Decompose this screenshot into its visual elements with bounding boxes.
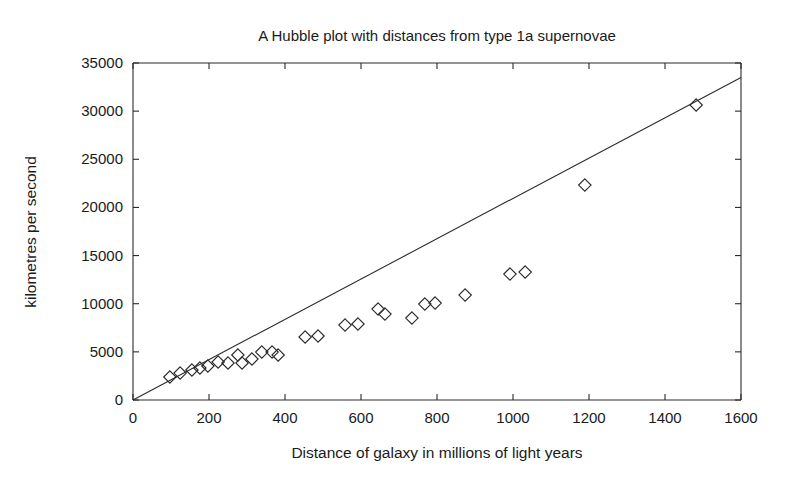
y-tick-label: 15000 [81,247,123,264]
data-point-marker [352,318,364,330]
y-tick-label: 0 [115,391,123,408]
y-tick-label: 10000 [81,295,123,312]
x-tick-label: 400 [272,409,297,426]
data-point-marker [372,303,384,315]
y-tick-label: 30000 [81,102,123,119]
data-point-marker [406,312,418,324]
y-tick-label: 35000 [81,54,123,71]
chart-title: A Hubble plot with distances from type 1… [258,27,616,44]
x-tick-label: 1000 [496,409,529,426]
x-tick-label: 800 [424,409,449,426]
x-tick-label: 600 [348,409,373,426]
data-point-marker [504,268,516,280]
data-point-marker [519,266,531,278]
x-tick-label: 0 [129,409,137,426]
data-point-marker [459,289,471,301]
y-axis-label: kilometres per second [22,156,39,308]
regression-line [133,77,741,400]
x-tick-label: 200 [196,409,221,426]
data-point-marker [339,319,351,331]
y-tick-label: 20000 [81,198,123,215]
x-axis-label: Distance of galaxy in millions of light … [291,444,582,461]
chart-canvas: A Hubble plot with distances from type 1… [0,0,798,486]
y-axis-ticks: 05000100001500020000250003000035000 [81,54,741,408]
data-point-marker [312,330,324,342]
x-axis-ticks: 02004006008001000120014001600 [129,63,758,426]
y-tick-label: 5000 [90,343,123,360]
data-point-marker [379,308,391,320]
data-point-marker [232,349,244,361]
x-tick-label: 1400 [648,409,681,426]
y-tick-label: 25000 [81,150,123,167]
hubble-plot-figure: A Hubble plot with distances from type 1… [0,0,798,486]
x-tick-label: 1600 [724,409,757,426]
data-point-marker [579,179,591,191]
data-point-marker [272,349,284,361]
data-point-marker [299,331,311,343]
axes-frame [133,63,741,400]
x-tick-label: 1200 [572,409,605,426]
